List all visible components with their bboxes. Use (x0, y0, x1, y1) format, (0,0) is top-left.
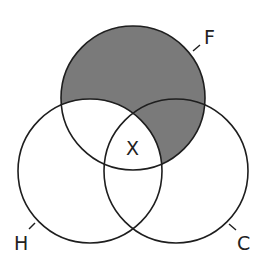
venn-diagram: F H C X (0, 0, 263, 261)
label-f: F (204, 26, 215, 48)
label-h: H (14, 232, 28, 254)
tick-h (29, 223, 35, 229)
label-x: X (126, 137, 139, 159)
label-c: C (237, 232, 250, 254)
tick-c (229, 224, 236, 230)
tick-f (193, 45, 200, 51)
